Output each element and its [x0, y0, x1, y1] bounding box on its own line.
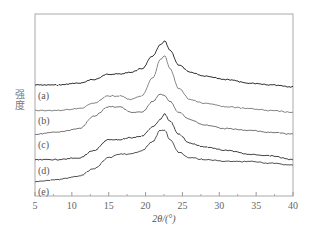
curve-labels: (a)(b)(c)(d)(e)	[38, 90, 50, 198]
curve-label-d: (d)	[38, 165, 50, 177]
curve-e	[35, 130, 293, 182]
y-axis-title-char: 强	[14, 89, 26, 100]
x-tick-label: 5	[33, 200, 38, 211]
x-tick-label: 20	[141, 200, 151, 211]
curve-label-b: (b)	[38, 115, 50, 127]
x-axis-ticks: 510152025303540	[33, 192, 299, 211]
curve-b	[35, 56, 293, 113]
curve-label-a: (a)	[38, 90, 49, 102]
x-tick-label: 15	[104, 200, 114, 211]
x-tick-label: 35	[251, 200, 261, 211]
y-axis-title-char: 度	[14, 100, 26, 111]
y-axis-title: 强 度	[14, 89, 26, 111]
x-axis-title: 2θ/(°)	[152, 213, 176, 225]
curve-d	[35, 114, 293, 160]
curve-label-e: (e)	[38, 186, 49, 198]
curves	[35, 41, 293, 182]
curve-label-c: (c)	[38, 139, 49, 151]
x-tick-label: 40	[288, 200, 298, 211]
x-tick-label: 10	[67, 200, 77, 211]
x-tick-label: 25	[177, 200, 187, 211]
x-tick-label: 30	[214, 200, 224, 211]
xrd-chart: 510152025303540 (a)(b)(c)(d)(e) 2θ/(°)	[0, 0, 314, 234]
curve-a	[35, 41, 293, 87]
